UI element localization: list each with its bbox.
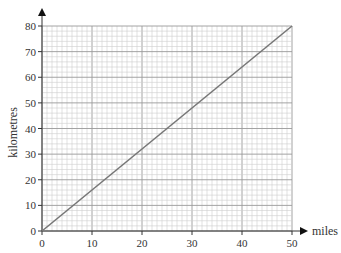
y-axis-label: kilometres <box>6 107 20 158</box>
y-tick-label: 0 <box>31 225 37 237</box>
y-axis-arrow-icon <box>38 8 46 16</box>
y-tick-label: 50 <box>25 97 37 109</box>
y-tick-label: 20 <box>25 174 37 186</box>
y-tick-label: 10 <box>25 199 37 211</box>
x-axis-arrow-icon <box>300 227 308 235</box>
x-tick-label: 10 <box>87 237 99 249</box>
x-tick-label: 20 <box>137 237 149 249</box>
x-tick-label: 50 <box>287 237 299 249</box>
y-tick-label: 80 <box>25 20 37 32</box>
x-tick-label: 0 <box>39 237 45 249</box>
y-tick-label: 40 <box>25 123 37 135</box>
y-tick-label: 30 <box>25 148 37 160</box>
x-tick-label: 30 <box>187 237 199 249</box>
y-tick-label: 60 <box>25 71 37 83</box>
y-tick-label: 70 <box>25 46 37 58</box>
x-tick-label: 40 <box>237 237 249 249</box>
conversion-graph: 0102030405001020304050607080 miles kilom… <box>0 0 341 253</box>
x-axis-label: miles <box>312 224 338 238</box>
